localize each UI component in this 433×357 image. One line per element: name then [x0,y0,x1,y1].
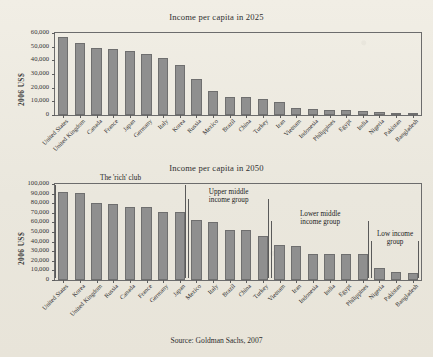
y-tick-mark [52,115,55,116]
y-tick-mark [52,88,55,89]
group-label-line: Upper middle [188,188,269,196]
y-tick-mark [52,60,55,61]
y-tick-label: 100,000 [28,180,49,187]
y-tick-label: 50,000 [31,228,49,235]
bar [125,51,135,115]
group-label-line: Lower middle [271,210,369,218]
group-label-line: income group [271,218,369,226]
bar [58,37,68,115]
plot-area-2050: 2006 US$ 010,00020,00030,00040,00050,000… [9,173,424,323]
y-tick-label: 10,000 [31,266,49,273]
bar [191,79,201,115]
y-tick-mark [52,33,55,34]
bar [225,97,235,115]
group-bracket [371,241,419,278]
y-tick-label: 20,000 [31,83,49,90]
y-tick-label: 30,000 [31,247,49,254]
group-label: Lower middleincome group [271,210,369,226]
group-label-line: The 'rich' club [55,174,186,182]
y-tick-label: 60,000 [31,29,49,36]
group-bracket [55,185,186,278]
y-tick-label: 40,000 [31,56,49,63]
group-label: The 'rich' club [55,174,186,182]
chart-panel-2025: Income per capita in 2025 2006 US$ 010,0… [9,12,424,162]
bar [291,108,301,115]
bar [91,48,101,115]
group-bracket [188,199,269,278]
y-tick-label: 30,000 [31,70,49,77]
bar [258,99,268,115]
group-label-line: income group [188,196,269,204]
y-tick-label: 80,000 [31,199,49,206]
y-tick-label: 60,000 [31,218,49,225]
group-label-line: Low income [371,230,419,238]
bar [158,58,168,115]
bars-container-2025 [54,32,422,116]
plot-area-2025: 2006 US$ 010,00020,00030,00040,00050,000… [9,22,424,162]
bar [108,49,118,115]
bar [175,65,185,115]
y-tick-label: 0 [46,111,49,118]
chart-panel-2050: Income per capita in 2050 2006 US$ 010,0… [9,163,424,323]
y-tick-mark [52,74,55,75]
y-tick-label: 10,000 [31,97,49,104]
y-tick-mark [52,280,55,281]
chart-title-2025: Income per capita in 2025 [9,12,424,22]
group-label: Upper middleincome group [188,188,269,204]
y-tick-label: 50,000 [31,42,49,49]
source-note: Source: Goldman Sachs, 2007 [0,336,433,345]
y-axis-ticks-2050: 010,00020,00030,00040,00050,00060,00070,… [9,183,49,279]
figure-income-per-capita: Income per capita in 2025 2006 US$ 010,0… [0,0,433,357]
group-bracket [271,221,369,278]
y-tick-label: 0 [46,276,49,283]
group-label: Low incomegroup [371,230,419,246]
y-tick-label: 90,000 [31,189,49,196]
bar [241,97,251,115]
bar [75,43,85,115]
y-tick-label: 70,000 [31,209,49,216]
group-label-line: group [371,238,419,246]
bar [141,54,151,116]
y-tick-mark [52,47,55,48]
y-tick-label: 20,000 [31,257,49,264]
bar [208,91,218,115]
y-tick-mark [52,101,55,102]
bar [274,102,284,115]
y-tick-label: 40,000 [31,237,49,244]
chart-title-2050: Income per capita in 2050 [9,163,424,173]
y-axis-ticks-2025: 010,00020,00030,00040,00050,00060,000 [9,32,49,114]
